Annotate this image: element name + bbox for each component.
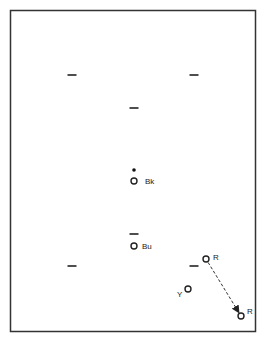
labeled-points: BkBuRYR xyxy=(131,177,253,319)
point-label-r1: R xyxy=(213,253,219,262)
point-label-bk: Bk xyxy=(145,177,155,186)
point-circle-r1 xyxy=(203,256,209,262)
point-label-r2: R xyxy=(247,307,253,316)
point-label-y: Y xyxy=(177,290,183,299)
diagram-canvas: BkBuRYR xyxy=(0,0,267,344)
point-circle-bk xyxy=(131,178,137,184)
point-circle-bu xyxy=(131,243,137,249)
point-circle-r2 xyxy=(238,313,244,319)
point-label-bu: Bu xyxy=(142,242,152,251)
dashed-arrow xyxy=(208,262,238,311)
dot-marker xyxy=(132,168,136,172)
point-circle-y xyxy=(185,286,191,292)
